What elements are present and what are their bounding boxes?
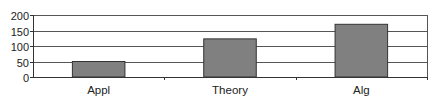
bar-chart: 050100150200 ApplTheoryAlg	[0, 0, 438, 102]
x-category-label: Appl	[87, 84, 110, 96]
bars	[72, 24, 387, 77]
y-tick-label: 0	[23, 72, 29, 84]
y-tick-label: 100	[11, 41, 29, 53]
bar-theory	[204, 39, 257, 77]
x-category-label: Theory	[212, 84, 248, 96]
y-tick-label: 200	[11, 10, 29, 22]
y-axis-ticks: 050100150200	[11, 10, 33, 84]
x-axis-labels: ApplTheoryAlg	[87, 84, 369, 96]
y-tick-label: 150	[11, 26, 29, 38]
bar-appl	[72, 62, 125, 78]
x-category-label: Alg	[353, 84, 370, 96]
bar-alg	[335, 24, 388, 77]
y-tick-label: 50	[17, 57, 29, 69]
